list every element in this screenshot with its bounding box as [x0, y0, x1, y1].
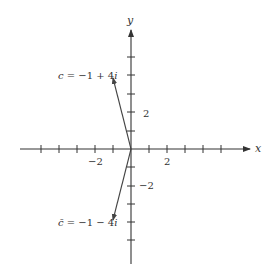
x-axis-label: x	[255, 142, 262, 155]
y-axis-label: y	[126, 14, 134, 27]
vector-c-label: c = −1 + 4i	[58, 70, 117, 81]
vector-c-conjugate	[113, 149, 131, 220]
vector-c	[113, 78, 131, 149]
x-tick-label-neg2: −2	[88, 156, 103, 167]
x-tick-label-2: 2	[164, 156, 170, 167]
vector-c-conjugate-label: c̄ = −1 − 4i	[58, 217, 117, 228]
y-tick-label-neg2: −2	[139, 180, 154, 191]
complex-plane-diagram: x y −2 2 2 −2 c = −1 + 4i c̄ = −1 − 4i	[0, 0, 274, 270]
y-tick-label-2: 2	[143, 108, 149, 119]
